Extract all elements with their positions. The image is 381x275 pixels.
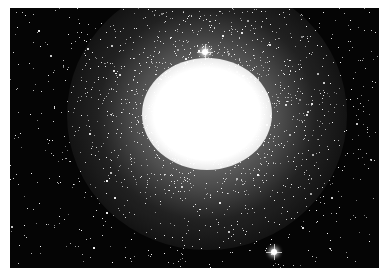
cluster-core bbox=[142, 58, 272, 170]
star-cluster-photo bbox=[10, 8, 379, 268]
bright-star-top bbox=[202, 49, 208, 55]
bright-star-bottom-right bbox=[271, 249, 277, 255]
